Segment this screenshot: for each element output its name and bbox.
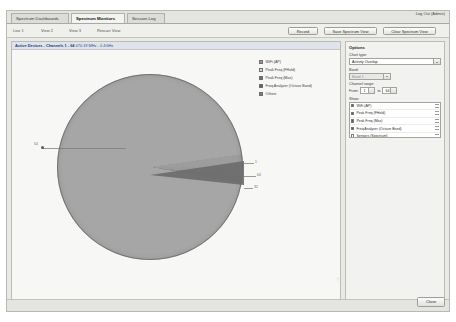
subtab-live-1[interactable]: Live 1 <box>13 27 24 35</box>
checkbox-icon[interactable] <box>351 112 354 115</box>
close-button[interactable]: Close <box>417 297 445 307</box>
legend-swatch-icon <box>259 76 263 80</box>
channel-from-value: 1 <box>363 89 365 93</box>
channel-to-stepper[interactable]: 64 <box>382 87 397 94</box>
leader-line-3 <box>244 188 253 189</box>
stepper-arrows-icon[interactable] <box>368 88 374 93</box>
subtab-rescan-view[interactable]: Rescan View <box>97 27 120 35</box>
band-label: Band: <box>349 68 441 72</box>
chevron-down-icon[interactable] <box>433 59 440 64</box>
subtab-view-3[interactable]: View 3 <box>69 27 81 35</box>
chart-panel: Active Devices - Channels 1 - 64 470.19 … <box>11 41 341 306</box>
drag-handle-icon[interactable] <box>435 126 439 131</box>
stepper-arrows-icon[interactable] <box>390 88 396 93</box>
pie-label-1: 1 <box>255 160 257 164</box>
channel-range-label: Channel range: <box>349 82 441 86</box>
chart-legend: WiFi (AP) Peak Freq (FHold) Peak Freq (M… <box>259 58 337 98</box>
drag-handle-icon[interactable] <box>435 111 439 116</box>
legend-item-peak-freq-fhold[interactable]: Peak Freq (FHold) <box>259 66 337 74</box>
drag-handle-icon[interactable] <box>435 134 439 138</box>
legend-item-freq-analyzer-octave-band[interactable]: Freq Analyzer (Octave Band) <box>259 82 337 90</box>
checkbox-icon[interactable] <box>351 134 354 137</box>
checkbox-icon[interactable] <box>351 119 354 122</box>
legend-item-others[interactable]: Others <box>259 90 337 98</box>
legend-item-peak-freq-max[interactable]: Peak Freq (Max) <box>259 74 337 82</box>
logout-link[interactable]: Log Out (Admin) <box>416 11 445 16</box>
channel-from-stepper[interactable]: 1 <box>360 87 375 94</box>
band-select[interactable]: Band 1 <box>349 73 391 80</box>
show-item-label: Peak Freq (Max) <box>356 119 434 123</box>
chart-title: Active Devices - Channels 1 - 64 <box>15 43 74 48</box>
application-window: Spectrum Dashboards Spectrum Monitors Se… <box>6 10 450 312</box>
chart-plot-area[interactable]: 54 1 64 32 WiFi (AP) Peak Freq (FHold) <box>12 50 340 307</box>
pie-label-32: 32 <box>254 185 258 189</box>
leader-line-1 <box>244 163 254 164</box>
options-panel: Options Chart type: Activity Overlap Ban… <box>345 41 445 306</box>
legend-swatch-icon <box>259 68 263 72</box>
leader-line-2 <box>244 176 256 177</box>
clear-spectrum-view-button[interactable]: Clear Spectrum View <box>383 27 436 35</box>
pie-label-64: 64 <box>257 173 261 177</box>
show-item-label: Sensors (Spectrum) <box>356 134 434 137</box>
chart-type-select[interactable]: Activity Overlap <box>349 58 441 65</box>
tab-label: Spectrum Dashboards <box>16 16 59 21</box>
from-label: From: <box>349 89 358 93</box>
chart-frequency-range: 470.19 MHz - 0.4GHz <box>76 43 114 48</box>
chart-header: Active Devices - Channels 1 - 64 470.19 … <box>12 42 340 50</box>
legend-label: WiFi (AP) <box>266 60 281 64</box>
status-bar: Close <box>7 299 449 311</box>
show-item-peak-freq-fhold[interactable]: Peak Freq (FHold) <box>350 110 440 118</box>
show-label: Show: <box>349 97 441 101</box>
drag-handle-icon[interactable] <box>435 104 439 109</box>
drag-handle-icon[interactable] <box>435 119 439 124</box>
pie-spoke-line <box>42 148 126 149</box>
tab-label: Spectrum Monitors <box>76 16 115 21</box>
tab-spectrum-monitors[interactable]: Spectrum Monitors <box>71 13 125 23</box>
show-item-label: WiFi (AP) <box>356 104 434 108</box>
tab-spectrum-dashboards[interactable]: Spectrum Dashboards <box>11 13 69 23</box>
main-tab-bar: Spectrum Dashboards Spectrum Monitors Se… <box>7 11 449 24</box>
legend-swatch-icon <box>259 92 263 96</box>
plot-watermark: † <box>336 276 339 282</box>
subtab-view-2[interactable]: View 2 <box>41 27 53 35</box>
tab-label: Session Log <box>132 16 156 21</box>
legend-label: Peak Freq (Max) <box>266 76 293 80</box>
show-item-wifi-ap[interactable]: WiFi (AP) <box>350 103 440 111</box>
legend-item-wifi-ap[interactable]: WiFi (AP) <box>259 58 337 66</box>
show-item-peak-freq-max[interactable]: Peak Freq (Max) <box>350 118 440 126</box>
legend-swatch-icon <box>259 60 263 64</box>
pie-label-54: 54 <box>34 142 38 146</box>
save-spectrum-view-button[interactable]: Save Spectrum View <box>324 27 377 35</box>
options-title: Options <box>349 45 441 50</box>
toolbar: Live 1 View 2 View 3 Rescan View Record … <box>7 24 449 38</box>
show-item-label: Freq Analyzer (Octave Band) <box>356 127 434 131</box>
chevron-down-icon[interactable] <box>383 74 390 79</box>
chart-type-label: Chart type: <box>349 53 441 57</box>
legend-label: Others <box>266 92 277 96</box>
record-button[interactable]: Record <box>288 27 318 35</box>
channel-to-value: 64 <box>385 89 389 93</box>
show-item-freq-analyzer-octave-band[interactable]: Freq Analyzer (Octave Band) <box>350 125 440 133</box>
channel-range-row: From: 1 to 64 <box>349 87 441 94</box>
show-list[interactable]: WiFi (AP) Peak Freq (FHold) Peak Freq (M… <box>349 102 441 138</box>
checkbox-icon[interactable] <box>351 104 354 107</box>
content-area: Active Devices - Channels 1 - 64 470.19 … <box>7 38 449 313</box>
tab-session-log[interactable]: Session Log <box>127 13 165 23</box>
show-item-sensors-spectrum[interactable]: Sensors (Spectrum) <box>350 133 440 138</box>
to-label: to <box>377 89 380 93</box>
show-item-label: Peak Freq (FHold) <box>356 111 434 115</box>
legend-label: Peak Freq (FHold) <box>266 68 296 72</box>
checkbox-icon[interactable] <box>351 127 354 130</box>
legend-swatch-icon <box>259 84 263 88</box>
band-value: Band 1 <box>352 75 364 79</box>
chart-type-value: Activity Overlap <box>352 60 378 64</box>
legend-label: Freq Analyzer (Octave Band) <box>266 84 312 88</box>
